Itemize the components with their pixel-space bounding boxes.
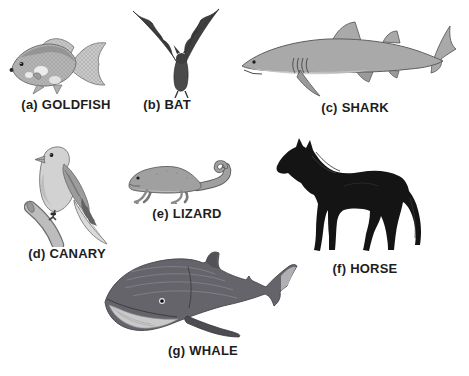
canary-figure	[24, 144, 114, 247]
lizard-body	[129, 166, 201, 193]
lizard-eye	[136, 176, 139, 179]
lizard-figure	[127, 156, 237, 204]
horse-body	[277, 138, 422, 251]
lizard-illustration	[127, 156, 237, 204]
shark-dorsal-fin	[332, 22, 361, 41]
lizard-label: (e)LIZARD	[152, 206, 221, 221]
shark-caudal-fin	[430, 26, 456, 73]
horse-illustration	[274, 138, 424, 258]
shark-mouth	[244, 70, 262, 74]
whale-figure	[103, 250, 299, 344]
goldfish-illustration	[8, 30, 110, 96]
whale-pectoral-fin	[185, 316, 240, 337]
shark-label: (c)SHARK	[321, 100, 389, 115]
goldfish-figure	[8, 30, 110, 96]
canary-illustration	[24, 144, 114, 247]
bat-left-wing	[133, 11, 178, 64]
whale-illustration	[103, 250, 299, 344]
whale-label: (g)WHALE	[168, 343, 238, 358]
bat-label: (b)BAT	[143, 97, 191, 112]
shark-eye	[252, 60, 255, 63]
animal-figure-canvas: (a)GOLDFISH (b)BAT	[0, 0, 469, 376]
canary-eye	[50, 153, 54, 157]
shark-body	[242, 39, 443, 73]
goldfish-label: (a)GOLDFISH	[21, 97, 110, 112]
shark-figure	[240, 14, 469, 98]
horse-label: (f)HORSE	[333, 261, 398, 276]
whale-eye	[160, 299, 165, 304]
bat-illustration	[128, 8, 222, 98]
canary-label: (d)CANARY	[28, 246, 106, 261]
bat-head	[176, 53, 187, 64]
goldfish-eye	[20, 62, 24, 66]
horse-figure	[274, 138, 424, 258]
shark-illustration	[240, 14, 469, 98]
goldfish-mouth	[10, 68, 14, 72]
bat-figure	[128, 8, 222, 98]
shark-second-dorsal-fin	[383, 31, 400, 43]
bat-right-wing	[185, 9, 219, 62]
